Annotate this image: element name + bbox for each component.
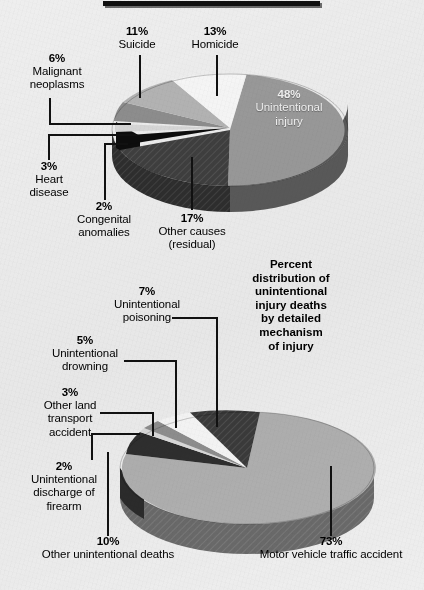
leader-line-other-causes [191, 157, 193, 210]
leader-line-malignant-h [49, 123, 131, 125]
callout-heart-disease: 3% Heart disease [10, 160, 88, 200]
callout-poisoning-pct: 7% [88, 285, 206, 298]
callout-malignant-pct: 6% [8, 52, 106, 65]
top-pie-inside-line1: Unintentional [255, 101, 322, 113]
callout-motor-line1: Motor vehicle traffic accident [260, 548, 403, 560]
callout-homicide-pct: 13% [176, 25, 254, 38]
leader-line-drowning-v [175, 360, 177, 428]
leader-line-motor [330, 466, 332, 536]
callout-suicide: 11% Suicide [104, 25, 170, 51]
callout-poisoning: 7% Unintentional poisoning [88, 285, 206, 325]
callout-drowning: 5% Unintentional drowning [26, 334, 144, 374]
callout-malignant-line2: neoplasms [30, 78, 85, 90]
leader-line-congenital-h [104, 143, 128, 145]
leading-causes-pie-chart [110, 58, 350, 208]
callout-firearm-line3: firearm [46, 500, 81, 512]
callout-congenital-pct: 2% [58, 200, 150, 213]
leader-line-congenital-v [104, 143, 106, 200]
callout-suicide-pct: 11% [104, 25, 170, 38]
top-pie-inside-line2: injury [275, 115, 302, 127]
callout-other-unintentional-deaths: 10% Other unintentional deaths [0, 535, 216, 561]
callout-other-land-transport: 3% Other land transport accident [18, 386, 122, 439]
leader-line-heart-v [48, 134, 50, 160]
bottom-chart-title: Percent distribution of unintentional in… [232, 258, 350, 353]
callout-poisoning-line1: Unintentional [114, 298, 180, 310]
callout-other-causes: 17% Other causes (residual) [138, 212, 246, 252]
leader-line-landtrans-v [152, 412, 154, 436]
callout-heart-line2: disease [30, 186, 69, 198]
title-line-1: Percent [270, 258, 312, 270]
title-line-2: distribution of [252, 272, 329, 284]
callout-motor-pct: 73% [238, 535, 424, 548]
leader-line-malignant-v [49, 98, 51, 124]
top-pie-svg [110, 58, 350, 208]
top-black-rule [103, 1, 320, 6]
callout-firearm-pct: 2% [8, 460, 120, 473]
leader-line-homicide [216, 55, 218, 96]
callout-congenital-line2: anomalies [78, 226, 130, 238]
leader-line-suicide [139, 55, 141, 98]
title-line-4: injury deaths [255, 299, 327, 311]
callout-firearm-line2: discharge of [33, 486, 94, 498]
title-line-3: unintentional [255, 285, 327, 297]
title-line-7: of injury [268, 340, 313, 352]
callout-drowning-line1: Unintentional [52, 347, 118, 359]
callout-otherdeath-pct: 10% [0, 535, 216, 548]
top-pie-inside-label: 48% Unintentional injury [243, 88, 335, 128]
callout-poisoning-line2: poisoning [123, 311, 171, 323]
callout-landtrans-line1: Other land [44, 399, 97, 411]
callout-other-causes-line1: Other causes [158, 225, 225, 237]
top-pie-inside-pct: 48% [243, 88, 335, 101]
callout-firearm-line1: Unintentional [31, 473, 97, 485]
callout-heart-line1: Heart [35, 173, 63, 185]
title-line-5: by detailed [261, 312, 321, 324]
callout-heart-pct: 3% [10, 160, 88, 173]
callout-malignant-line1: Malignant [33, 65, 82, 77]
callout-other-causes-line2: (residual) [169, 238, 216, 250]
title-line-6: mechanism [259, 326, 322, 338]
callout-homicide: 13% Homicide [176, 25, 254, 51]
callout-other-causes-pct: 17% [138, 212, 246, 225]
callout-firearm: 2% Unintentional discharge of firearm [8, 460, 120, 513]
callout-malignant-neoplasms: 6% Malignant neoplasms [8, 52, 106, 92]
leader-line-heart-h [48, 134, 137, 136]
callout-landtrans-pct: 3% [18, 386, 122, 399]
callout-landtrans-line3: accident [49, 426, 91, 438]
callout-homicide-label: Homicide [191, 38, 238, 50]
callout-drowning-line2: drowning [62, 360, 108, 372]
callout-drowning-pct: 5% [26, 334, 144, 347]
callout-landtrans-line2: transport [48, 412, 92, 424]
callout-motor-vehicle: 73% Motor vehicle traffic accident [238, 535, 424, 561]
callout-suicide-label: Suicide [118, 38, 155, 50]
callout-congenital-anomalies: 2% Congenital anomalies [58, 200, 150, 240]
callout-congenital-line1: Congenital [77, 213, 131, 225]
leader-line-poisoning-v [216, 317, 218, 427]
callout-otherdeath-line1: Other unintentional deaths [42, 548, 174, 560]
